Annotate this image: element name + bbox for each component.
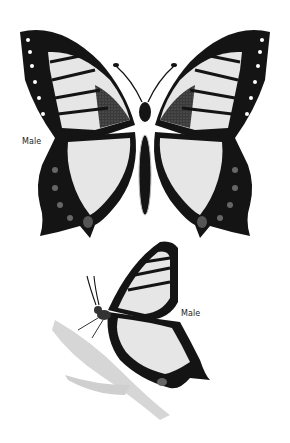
figure-label-bottom: Male bbox=[181, 309, 200, 318]
butterfly-illustration bbox=[0, 0, 290, 443]
top-butterfly bbox=[20, 30, 270, 238]
bottom-butterfly bbox=[52, 242, 210, 420]
figure-label-top: Male bbox=[22, 137, 41, 146]
